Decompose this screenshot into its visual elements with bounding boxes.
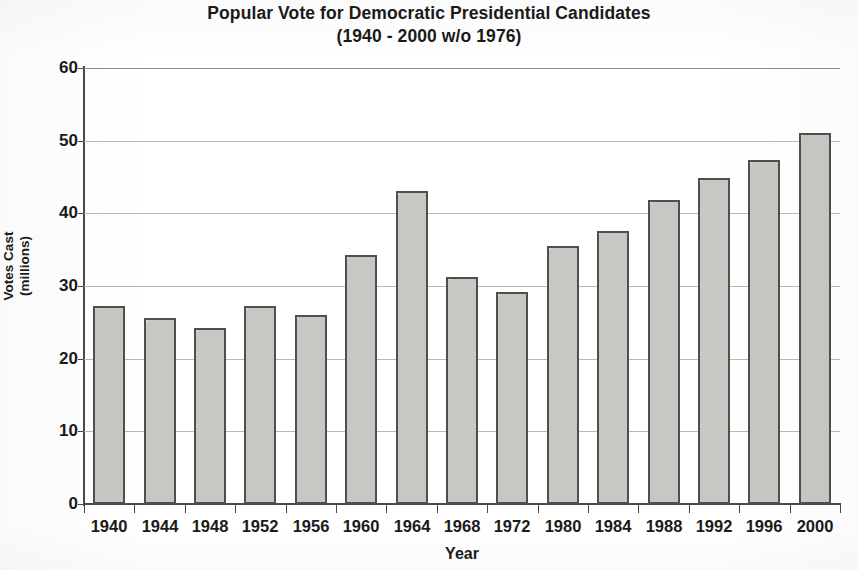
x-axis-tick-mark (588, 505, 589, 513)
x-axis-tick-mark (487, 505, 488, 513)
chart-title-line1: Popular Vote for Democratic Presidential… (207, 3, 650, 23)
x-axis-tick-mark (538, 505, 539, 513)
x-axis-tick-mark (638, 505, 639, 513)
bar (547, 246, 579, 504)
x-axis-tick-mark (336, 505, 337, 513)
y-axis-tick-label: 20 (32, 350, 78, 367)
bar (144, 318, 176, 504)
y-axis-tick-label: 60 (32, 59, 78, 76)
x-axis-tick-mark (84, 505, 85, 513)
chart-subtitle: (1940 - 2000 w/o 1976) (0, 25, 858, 48)
bar (194, 328, 226, 504)
gridline (84, 68, 840, 69)
y-axis-tick-label: 30 (32, 277, 78, 294)
x-axis-tick-mark (386, 505, 387, 513)
chart-title: Popular Vote for Democratic Presidential… (0, 2, 858, 48)
bar (244, 306, 276, 504)
bar (799, 133, 831, 504)
bar (345, 255, 377, 504)
x-axis-tick-label: 2000 (785, 517, 845, 536)
bar-chart: Popular Vote for Democratic Presidential… (0, 0, 858, 570)
bar (295, 315, 327, 504)
x-axis-tick-mark (689, 505, 690, 513)
y-axis-tick-label: 0 (32, 495, 78, 512)
bar (93, 306, 125, 504)
bar (396, 191, 428, 504)
gridline (84, 141, 840, 142)
y-axis-title-line1: Votes Cast (1, 232, 16, 301)
bar (597, 231, 629, 504)
x-axis-tick-mark (134, 505, 135, 513)
x-axis-tick-mark (790, 505, 791, 513)
x-axis-tick-mark (185, 505, 186, 513)
x-axis-tick-mark (235, 505, 236, 513)
y-axis-tick-label: 10 (32, 422, 78, 439)
x-axis-tick-mark (286, 505, 287, 513)
x-axis-title: Year (84, 545, 840, 563)
bar (446, 277, 478, 504)
y-axis-tick-label: 50 (32, 132, 78, 149)
x-axis-tick-mark (739, 505, 740, 513)
bar (748, 160, 780, 504)
x-axis-tick-mark (437, 505, 438, 513)
bar (698, 178, 730, 504)
x-axis-tick-mark (840, 505, 841, 513)
y-axis-tick-labels: 0102030405060 (22, 0, 78, 570)
bar (648, 200, 680, 504)
bar (496, 292, 528, 504)
plot-area (84, 68, 840, 504)
y-axis-tick-label: 40 (32, 204, 78, 221)
